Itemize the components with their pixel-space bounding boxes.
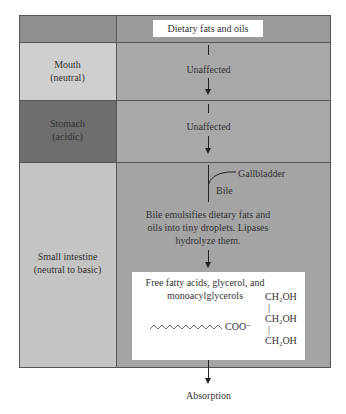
region-condition: (acidic) xyxy=(19,130,116,143)
flow-line xyxy=(208,78,209,89)
title-box-label: Dietary fats and oils xyxy=(153,22,263,35)
glycerol-structure: CH₂OH | CH₂OH | CH₂OH xyxy=(265,291,297,346)
region-name: Stomach xyxy=(19,117,116,130)
stomach-label: Stomach (acidic) xyxy=(19,117,116,143)
mouth-effect: Unaffected xyxy=(150,63,267,76)
flow-line xyxy=(208,104,209,113)
fatty-acid-chain-icon xyxy=(150,323,225,331)
arrow-down-icon xyxy=(205,262,211,268)
emulsify-text: Bile emulsifies dietary fats and oils in… xyxy=(130,208,286,247)
absorption-label: Absorption xyxy=(160,389,257,402)
region-condition: (neutral) xyxy=(19,71,116,84)
arrow-down-icon xyxy=(205,378,211,384)
intestine-label: Small intestine (neutral to basic) xyxy=(19,250,116,276)
stomach-effect: Unaffected xyxy=(150,120,267,133)
arrow-down-icon xyxy=(205,89,211,95)
region-name: Mouth xyxy=(19,58,116,71)
row-divider xyxy=(19,162,331,163)
gallbladder-label: Gallbladder xyxy=(238,167,285,180)
flow-line xyxy=(208,250,209,262)
flow-line xyxy=(208,136,209,148)
region-name: Small intestine xyxy=(19,250,116,263)
flow-line xyxy=(208,360,209,378)
row-divider xyxy=(19,42,331,43)
region-condition: (neutral to basic) xyxy=(19,263,116,276)
arrow-down-icon xyxy=(205,148,211,154)
bile-label: Bile xyxy=(216,184,233,197)
column-divider xyxy=(116,15,117,368)
carboxylate-label: COO⁻ xyxy=(225,320,251,333)
flow-line xyxy=(208,45,209,55)
products-text: Free fatty acids, glycerol, and monoacyl… xyxy=(140,276,270,302)
mouth-label: Mouth (neutral) xyxy=(19,58,116,84)
row-divider xyxy=(19,100,331,101)
